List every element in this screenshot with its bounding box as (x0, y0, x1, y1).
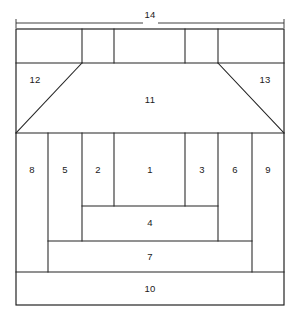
ref-label-7: 7 (147, 251, 152, 262)
ref-label-8: 8 (29, 164, 34, 175)
ref-label-2: 2 (95, 164, 100, 175)
ref-label-3: 3 (199, 164, 204, 175)
ref-label-12: 12 (30, 74, 41, 85)
dimension-group-14: 14 (16, 9, 284, 28)
ref-label-4: 4 (147, 217, 152, 228)
ref-label-11: 11 (145, 94, 155, 105)
patent-figure-container: 14 (0, 0, 300, 317)
trapezoid-left-diagonal (16, 63, 82, 133)
reference-numerals-group: 11 12 13 8 5 2 1 3 6 9 4 7 10 (29, 74, 270, 294)
ref-label-9: 9 (265, 164, 270, 175)
ref-label-10: 10 (145, 283, 156, 294)
trapezoid-right-diagonal (218, 63, 284, 133)
ref-label-5: 5 (62, 164, 67, 175)
ref-label-1: 1 (147, 164, 152, 175)
ref-label-6: 6 (232, 164, 237, 175)
ref-label-13: 13 (260, 74, 271, 85)
top-band-group (16, 29, 284, 63)
dimension-label-14: 14 (145, 9, 156, 20)
patent-line-drawing: 14 (0, 0, 300, 317)
